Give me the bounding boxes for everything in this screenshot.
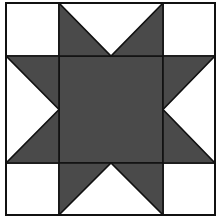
quilt-pieces [6, 3, 215, 215]
center-square [59, 56, 163, 163]
corner-bottom-left [6, 163, 59, 215]
corner-top-left [6, 3, 59, 56]
corner-bottom-right [163, 163, 215, 215]
quilt-block-diagram [0, 0, 220, 220]
corner-top-right [163, 3, 215, 56]
